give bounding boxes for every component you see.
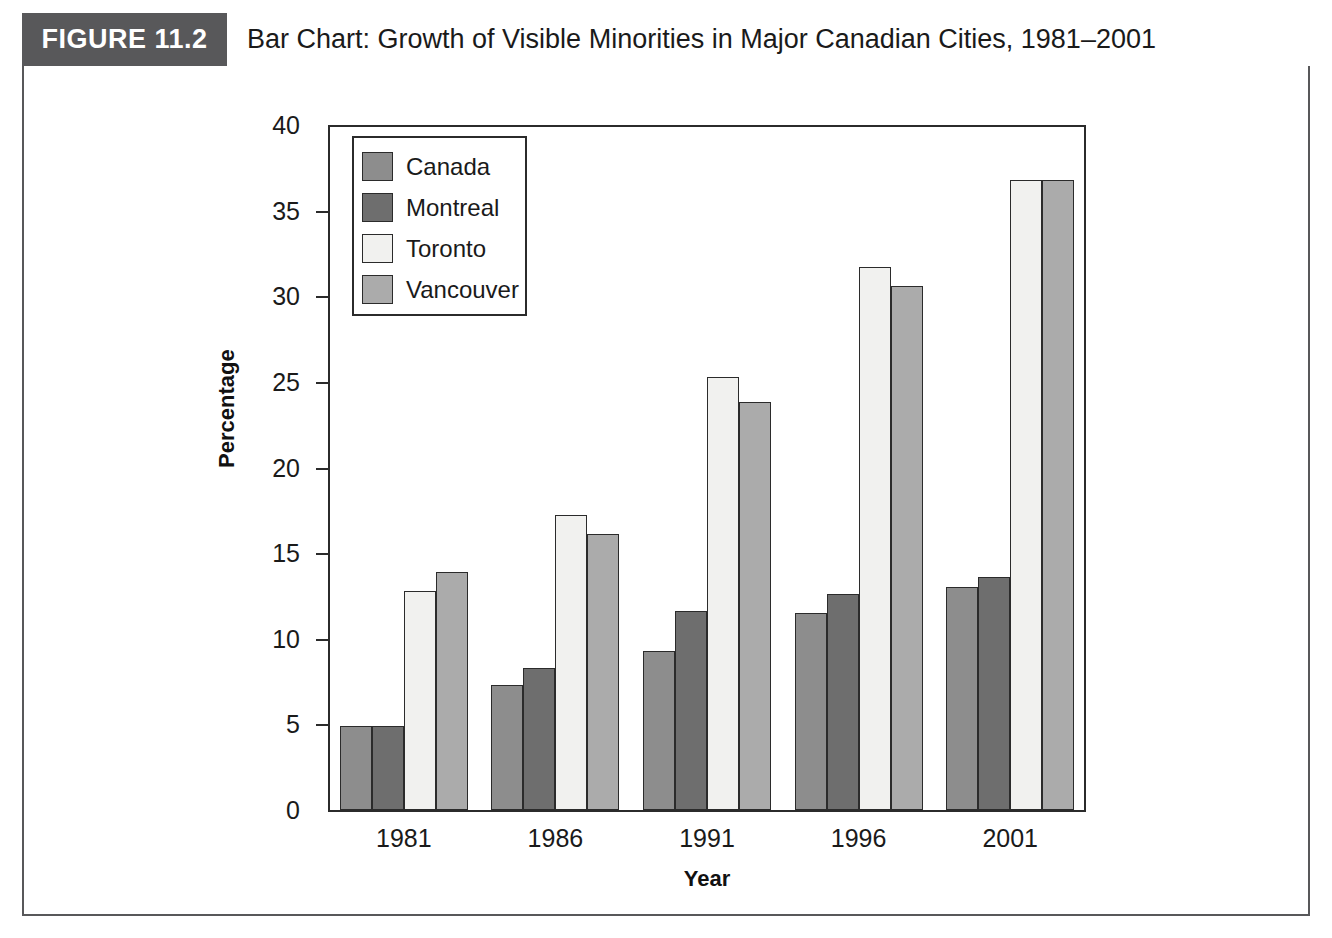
y-axis-tick-label: 30 (248, 284, 300, 309)
bar-canada-2001 (946, 587, 978, 810)
legend-item-toronto: Toronto (362, 228, 525, 269)
legend-label: Canada (406, 155, 490, 179)
x-axis-tick-label: 2001 (930, 824, 1090, 853)
legend-label: Toronto (406, 237, 486, 261)
bar-vancouver-1991 (739, 402, 771, 810)
legend-item-canada: Canada (362, 146, 525, 187)
figure-caption-bar: FIGURE 11.2 Bar Chart: Growth of Visible… (22, 13, 1310, 66)
bar-canada-1986 (491, 685, 523, 810)
figure-title: Bar Chart: Growth of Visible Minorities … (227, 13, 1310, 66)
bar-chart: 0510152025303540 Percentage 198119861991… (0, 0, 1332, 938)
bar-vancouver-1981 (436, 572, 468, 810)
bar-canada-1996 (795, 613, 827, 810)
legend-label: Montreal (406, 196, 499, 220)
y-axis-tick-label: 40 (248, 113, 300, 138)
y-axis-tick-label: 25 (248, 370, 300, 395)
y-axis-title: Percentage (214, 349, 240, 468)
x-axis-tick-label: 1981 (324, 824, 484, 853)
bar-toronto-1981 (404, 591, 436, 810)
legend-swatch-icon (362, 234, 393, 263)
x-axis-tick-label: 1986 (475, 824, 635, 853)
legend-swatch-icon (362, 275, 393, 304)
bar-toronto-1991 (707, 377, 739, 810)
legend-swatch-icon (362, 193, 393, 222)
y-axis-tick-label: 20 (248, 456, 300, 481)
bar-vancouver-1996 (891, 286, 923, 810)
bar-canada-1981 (340, 726, 372, 810)
bar-vancouver-1986 (587, 534, 619, 810)
legend-label: Vancouver (406, 278, 519, 302)
legend-swatch-icon (362, 152, 393, 181)
x-axis-tick-label: 1991 (627, 824, 787, 853)
y-axis-tick-label: 0 (248, 798, 300, 823)
bar-toronto-2001 (1010, 180, 1042, 810)
bar-montreal-2001 (978, 577, 1010, 810)
x-axis-tick-label: 1996 (779, 824, 939, 853)
figure-number-badge: FIGURE 11.2 (22, 13, 227, 66)
bar-montreal-1981 (372, 726, 404, 810)
bar-montreal-1991 (675, 611, 707, 810)
bar-toronto-1996 (859, 267, 891, 810)
y-axis-tick-label: 35 (248, 199, 300, 224)
y-axis-tick-label: 5 (248, 712, 300, 737)
bar-canada-1991 (643, 651, 675, 810)
bar-vancouver-2001 (1042, 180, 1074, 810)
bar-montreal-1986 (523, 668, 555, 810)
bar-montreal-1996 (827, 594, 859, 810)
legend-item-montreal: Montreal (362, 187, 525, 228)
chart-legend: CanadaMontrealTorontoVancouver (352, 136, 527, 316)
legend-item-vancouver: Vancouver (362, 269, 525, 310)
y-axis-tick-label: 15 (248, 541, 300, 566)
x-axis-title: Year (328, 866, 1086, 892)
bar-toronto-1986 (555, 515, 587, 810)
y-axis-tick-label: 10 (248, 627, 300, 652)
